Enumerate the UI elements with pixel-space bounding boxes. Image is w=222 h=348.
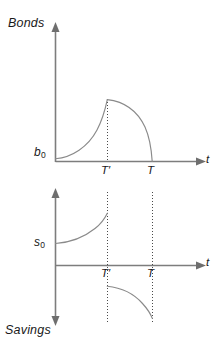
- savings-tick-t-prime: T′: [101, 268, 110, 280]
- bonds-y-axis-arrow-icon: [52, 22, 60, 32]
- bonds-tick-t-prime: T′: [101, 165, 110, 177]
- savings-positive-curve: [56, 213, 108, 243]
- bonds-x-axis-arrow-icon: [196, 158, 206, 166]
- bonds-initial-value-label: b0: [34, 146, 46, 159]
- b0-base: b: [34, 145, 41, 159]
- bonds-decumulation-curve: [107, 100, 152, 162]
- savings-time-axis-label: t: [206, 257, 209, 269]
- top-panel-bonds: [52, 22, 207, 166]
- savings-initial-value-label: s0: [34, 236, 45, 249]
- savings-tick-t: T: [147, 268, 154, 280]
- savings-x-axis-arrow-icon: [196, 262, 206, 270]
- plot-canvas: [0, 0, 222, 348]
- savings-y-axis-up-arrow-icon: [52, 188, 60, 198]
- bonds-accumulation-curve: [56, 100, 108, 159]
- savings-y-axis-down-arrow-icon: [52, 316, 60, 326]
- savings-axis-title: Savings: [5, 324, 51, 337]
- bonds-time-axis-label: t: [206, 154, 209, 166]
- b0-subscript: 0: [41, 150, 46, 160]
- economics-figure: Bonds b0 t T′ T s0 t T′ T Savings: [0, 0, 222, 348]
- bottom-panel-savings: [52, 188, 207, 326]
- savings-negative-curve: [107, 286, 152, 318]
- s0-subscript: 0: [40, 240, 45, 250]
- bonds-tick-t: T: [147, 165, 154, 177]
- bonds-axis-title: Bonds: [8, 17, 44, 30]
